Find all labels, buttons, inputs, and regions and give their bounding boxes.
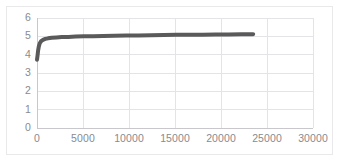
y-tick-label-0: 0 (17, 122, 31, 133)
chart-figure: 0123456 050001000015000200002500030000 (0, 0, 345, 166)
y-tick-label-3: 3 (17, 67, 31, 78)
y-tick-label-2: 2 (17, 85, 31, 96)
y-tick-label-5: 5 (17, 30, 31, 41)
y-tick-label-6: 6 (17, 12, 31, 23)
y-tick-label-4: 4 (17, 49, 31, 60)
y-tick-label-1: 1 (17, 104, 31, 115)
x-tick-label-30000: 30000 (283, 133, 343, 144)
plot-area: 0123456 050001000015000200002500030000 (0, 0, 345, 166)
